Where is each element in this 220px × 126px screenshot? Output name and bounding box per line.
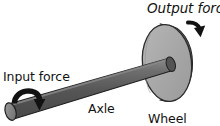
output-force-curved-arrow [188,22,205,37]
wheel-and-axle-illustration: Output force Input force Axle Wheel [0,0,220,126]
diagram-canvas: Output force Input force Axle Wheel [0,0,220,126]
input-force-label: Input force [3,69,70,84]
wheel-label: Wheel [148,111,187,126]
output-force-label: Output force [147,0,220,16]
output-force-arrowhead [194,26,205,38]
axle-label: Axle [88,101,115,116]
